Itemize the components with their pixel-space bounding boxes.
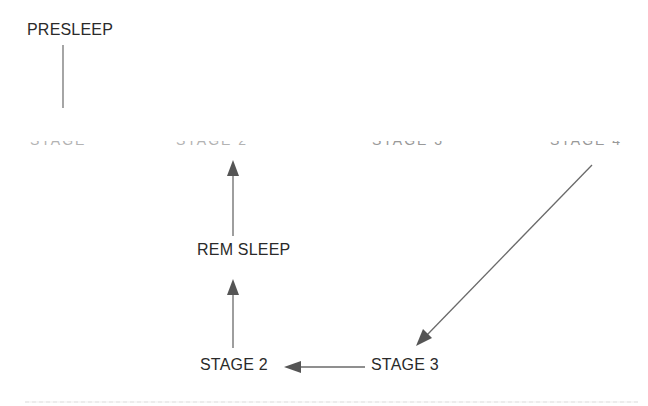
arrow-stage2-to-rem: [227, 279, 239, 348]
arrow-rem-to-top: [227, 160, 239, 236]
diagram-connectors: [0, 0, 648, 406]
bottom-scan-artifact: [25, 401, 638, 403]
arrow-stage4-to-stage3: [416, 165, 592, 346]
arrow-stage3-to-stage2: [284, 361, 365, 373]
